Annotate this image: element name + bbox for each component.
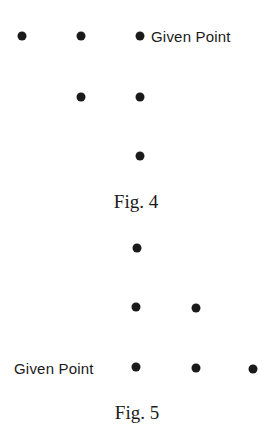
- point: [192, 304, 201, 313]
- point: [77, 32, 86, 41]
- point: [77, 93, 86, 102]
- point: [136, 93, 145, 102]
- point: [249, 365, 258, 374]
- given-point: [132, 363, 141, 372]
- point: [132, 303, 141, 312]
- point: [18, 32, 27, 41]
- given-point: [136, 32, 145, 41]
- point: [192, 364, 201, 373]
- figure-caption: Fig. 4: [114, 191, 158, 213]
- given-point-label: Given Point: [14, 360, 94, 377]
- figure-caption: Fig. 5: [115, 402, 159, 424]
- point: [133, 244, 142, 253]
- given-point-label: Given Point: [151, 28, 231, 45]
- point: [136, 152, 145, 161]
